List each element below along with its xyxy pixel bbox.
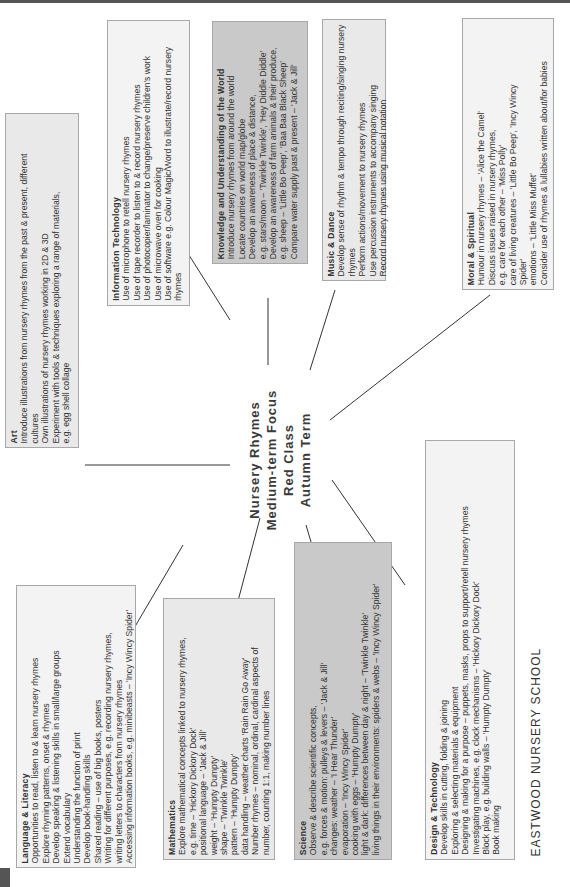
box-title: Mathematics <box>167 601 177 855</box>
class-name: Red Class <box>280 344 297 576</box>
topic-title: Nursery Rhymes <box>246 344 263 576</box>
box-knowledge-understanding: Knowledge and Understanding of the World… <box>212 21 308 264</box>
box-art: Art Introduce illustrations from nursery… <box>5 113 79 448</box>
center-title: Nursery Rhymes Medium-term Focus Red Cla… <box>243 340 343 580</box>
term-name: Autumn Term <box>297 344 314 576</box>
box-design-technology: Design & Technology Develop skills in cu… <box>425 440 515 860</box>
box-music-dance: Music & Dance Develop sense of rhythm & … <box>322 19 386 281</box>
box-science: Science Observe & describe scientific co… <box>294 542 392 860</box>
page-tab-marker <box>0 868 10 887</box>
box-title: Information Technology <box>111 23 121 301</box>
connector-moral <box>330 295 490 420</box>
school-name-block: EASTWOOD NURSERY SCHOOL <box>528 660 550 860</box>
box-title: Art <box>9 116 19 443</box>
box-title: Language & Literacy <box>20 588 30 863</box>
box-title: Design & Technology <box>429 443 439 855</box>
box-title: Music & Dance <box>326 22 336 276</box>
school-name: EASTWOOD NURSERY SCHOOL <box>531 664 541 856</box>
box-title: Moral & Spiritual <box>466 21 476 285</box>
focus-title: Medium-term Focus <box>263 344 280 576</box>
box-mathematics: Mathematics Explore mathematical concept… <box>163 598 275 860</box>
box-moral-spiritual: Moral & Spiritual Humour in nursery rhym… <box>462 18 554 290</box>
box-information-technology: Information Technology Use of microphone… <box>107 20 190 306</box>
box-title: Knowledge and Understanding of the World <box>216 24 226 259</box>
box-language-literacy: Language & Literacy Opportunities to rea… <box>16 585 136 868</box>
box-title: Science <box>298 545 308 855</box>
